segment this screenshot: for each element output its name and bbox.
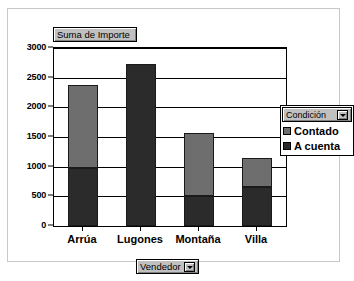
legend-entry[interactable]: A cuenta — [281, 138, 353, 153]
value-field-button[interactable]: Suma de Importe — [53, 27, 137, 42]
legend-entry[interactable]: Contado — [281, 123, 353, 138]
y-axis-tick-label: 0 — [41, 220, 46, 230]
y-axis-tick-label: 1000 — [27, 161, 46, 171]
gridline — [54, 48, 286, 49]
bar-segment[interactable] — [242, 158, 272, 188]
x-axis-tick-mark — [140, 226, 141, 231]
bar-segment[interactable] — [68, 85, 98, 168]
category-field-button[interactable]: Vendedor — [136, 259, 199, 274]
bar-segment[interactable] — [242, 187, 272, 226]
legend: Condición ContadoA cuenta — [280, 105, 354, 156]
y-axis: 050010001500200025003000 — [8, 9, 53, 239]
x-axis-tick-label: Villa — [245, 233, 267, 245]
legend-field-button[interactable]: Condición — [282, 107, 352, 122]
plot-area — [53, 47, 287, 227]
x-axis-tick-label: Arrúa — [67, 233, 96, 245]
legend-entry-label: A cuenta — [294, 140, 340, 152]
bar-segment[interactable] — [68, 168, 98, 226]
y-axis-tick-label: 500 — [32, 190, 46, 200]
y-axis-tick-label: 2000 — [27, 101, 46, 111]
x-axis-tick-mark — [256, 226, 257, 231]
bar-segment[interactable] — [126, 64, 156, 226]
x-axis-tick-label: Montaña — [175, 233, 220, 245]
y-axis-tick-label: 3000 — [27, 42, 46, 52]
y-axis-tick-label: 1500 — [27, 131, 46, 141]
bar-segment[interactable] — [184, 196, 214, 226]
bar-segment[interactable] — [184, 133, 214, 196]
gridline — [54, 78, 286, 79]
x-axis-tick-mark — [82, 226, 83, 231]
legend-field-label: Condición — [286, 110, 329, 120]
x-axis-tick-label: Lugones — [117, 233, 163, 245]
legend-swatch — [283, 127, 291, 135]
category-field-label: Vendedor — [140, 261, 184, 272]
legend-entries: ContadoA cuenta — [281, 123, 353, 153]
x-axis-tick-mark — [198, 226, 199, 231]
y-axis-tick-label: 2500 — [27, 72, 46, 82]
pivot-chart-panel: 050010001500200025003000 ArrúaLugonesMon… — [7, 8, 340, 262]
legend-swatch — [283, 142, 291, 150]
value-field-label: Suma de Importe — [57, 29, 133, 40]
legend-entry-label: Contado — [294, 125, 339, 137]
chevron-down-icon[interactable] — [337, 110, 348, 120]
chevron-down-icon[interactable] — [184, 262, 195, 272]
